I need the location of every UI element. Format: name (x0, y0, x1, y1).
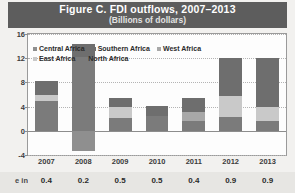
legend-label: West Africa (163, 45, 201, 52)
legend-swatch-icon (33, 57, 37, 61)
y-axis-tick-label: -4 (3, 151, 25, 160)
x-axis-tick-label: 2008 (65, 157, 102, 166)
value-strip-cell: 0.5 (139, 176, 176, 185)
bar-segment (219, 117, 242, 131)
page-title: Figure C. FDI outflows, 2007–2013 (8, 3, 287, 15)
legend-swatch-icon (157, 47, 161, 51)
y-axis-tick-label: 0 (3, 126, 25, 135)
bar-segment (182, 121, 205, 131)
legend-item: West Africa (157, 39, 201, 57)
figure-subtitle: (Billions of dollars) (8, 15, 287, 25)
value-strip-cell: 0.2 (65, 176, 102, 185)
legend-row: Central AfricaSouthern AfricaWest Africa (33, 39, 208, 49)
bar-segment (72, 57, 95, 131)
legend-label: North Africa (88, 55, 128, 62)
value-strip: e in 0.40.20.50.50.40.90.9 (0, 172, 295, 193)
x-axis-tick-label: 2007 (28, 157, 65, 166)
value-strip-cell: 0.9 (249, 176, 286, 185)
x-axis-tick-label: 2010 (139, 157, 176, 166)
bar-segment (219, 58, 242, 96)
y-axis-tick-label: 16 (3, 30, 25, 39)
value-strip-cell: 0.9 (212, 176, 249, 185)
legend-item: East Africa (33, 49, 75, 67)
legend-item: North Africa (82, 49, 128, 67)
bar-segment (146, 116, 169, 131)
x-axis-tick-label: 2013 (249, 157, 286, 166)
value-strip-label: e in (0, 176, 28, 185)
bar-segment (256, 58, 279, 108)
bar-column[interactable] (256, 34, 279, 155)
bar-segment (182, 112, 205, 121)
y-axis-tick-label: 12 (3, 54, 25, 63)
x-axis-tick-label: 2012 (212, 157, 249, 166)
bar-segment (109, 118, 132, 131)
bar-segment (219, 96, 242, 117)
bar-segment (109, 98, 132, 107)
bar-segment (146, 106, 169, 116)
figure-header-band: Figure C. FDI outflows, 2007–2013 (Billi… (8, 2, 287, 28)
figure-container: Figure C. FDI outflows, 2007–2013 (Billi… (0, 0, 295, 193)
value-strip-cell: 0.4 (175, 176, 212, 185)
legend-swatch-icon (82, 57, 86, 61)
bar-segment (109, 107, 132, 118)
x-axis: 2007200820092010201120122013 (28, 157, 286, 171)
chart-legend: Central AfricaSouthern AfricaWest Africa… (33, 39, 233, 61)
bar-segment (35, 101, 58, 131)
value-strip-cell: 0.5 (102, 176, 139, 185)
bar-segment (35, 95, 58, 100)
value-strip-cell: 0.4 (28, 176, 65, 185)
y-axis-tick-label: 8 (3, 78, 25, 87)
legend-row: East AfricaNorth Africa (33, 49, 136, 59)
legend-label: East Africa (39, 55, 75, 62)
bar-segment (35, 81, 58, 96)
x-axis-tick-label: 2009 (102, 157, 139, 166)
x-axis-tick-label: 2011 (175, 157, 212, 166)
y-axis: 1612840-4 (0, 34, 25, 155)
bar-segment (182, 98, 205, 113)
bar-segment (256, 107, 279, 121)
bar-segment (256, 121, 279, 131)
bar-segment (72, 131, 95, 152)
y-axis-tick-label: 4 (3, 102, 25, 111)
gridline--4 (28, 155, 286, 156)
